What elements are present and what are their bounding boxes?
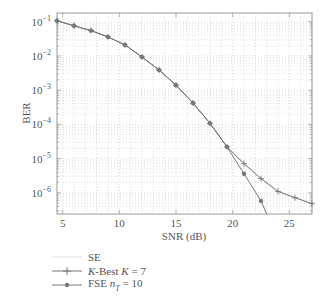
grid-lines (57, 13, 312, 214)
legend-label-se: SE (88, 251, 101, 263)
x-axis-label: SNR (dB) (162, 230, 207, 243)
x-tick-label: 20 (227, 217, 239, 229)
ber-chart: 51015202510−110−210−310−410−510−6 SNR (d… (0, 0, 331, 245)
legend-label-fse: FSE nT = 10 (88, 277, 142, 292)
y-tick-label: 10−2 (31, 48, 51, 62)
x-tick-label: 25 (284, 217, 296, 229)
y-tick-label: 10−5 (31, 151, 51, 165)
y-tick-label: 10−4 (31, 116, 51, 130)
x-tick-label: 5 (60, 217, 66, 229)
y-tick-label: 10−1 (31, 14, 51, 28)
legend-dot-marker-icon (52, 280, 82, 290)
legend-item-fse: FSE nT = 10 (52, 278, 146, 292)
legend-label-kbest: K-Best K = 7 (88, 265, 146, 277)
y-tick-label: 10−3 (31, 82, 51, 96)
series-1 (54, 18, 315, 207)
legend: SE K-Best K = 7 FSE nT = 10 (52, 250, 146, 292)
x-tick-label: 15 (171, 217, 183, 229)
data-series (54, 18, 315, 214)
series-2 (55, 19, 267, 214)
legend-plus-marker-icon (52, 266, 82, 276)
legend-item-se: SE (52, 250, 146, 264)
y-tick-label: 10−6 (31, 185, 51, 199)
plot-frame (57, 13, 312, 214)
legend-line-se-icon (52, 252, 82, 262)
legend-item-kbest: K-Best K = 7 (52, 264, 146, 278)
y-axis-label: BER (20, 102, 32, 124)
x-tick-label: 10 (114, 217, 126, 229)
